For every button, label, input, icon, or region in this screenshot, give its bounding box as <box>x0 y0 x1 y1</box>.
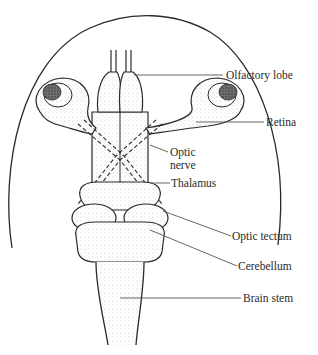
label-brain-stem: Brain stem <box>243 292 293 304</box>
label-cerebellum: Cerebellum <box>238 260 292 272</box>
label-thalamus: Thalamus <box>171 177 216 189</box>
olfactory-lobe-right <box>119 72 142 112</box>
label-retina: Retina <box>266 116 296 128</box>
label-optic-tectum: Optic tectum <box>232 230 292 242</box>
label-olfactory-lobe: Olfactory lobe <box>226 69 293 81</box>
label-optic-nerve-line1: Optic <box>170 146 196 158</box>
left-eye <box>36 78 96 134</box>
label-optic-nerve-line2: nerve <box>170 159 196 171</box>
olfactory-tracts <box>111 50 131 72</box>
cerebellum <box>76 222 165 262</box>
olfactory-lobe-left <box>97 72 120 112</box>
brain-diagram: Olfactory lobe Retina Optic nerve Thalam… <box>0 0 318 355</box>
